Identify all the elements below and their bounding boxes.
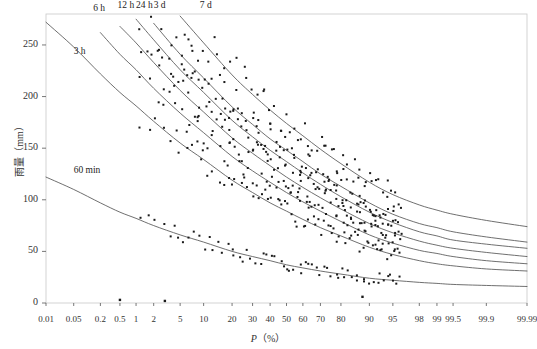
x-tick-label: 90 [365, 314, 374, 324]
scatter-point [140, 217, 142, 219]
scatter-point [359, 195, 361, 197]
scatter-point [372, 214, 374, 216]
scatter-point [394, 234, 396, 236]
scatter-point [398, 203, 400, 205]
scatter-point [270, 128, 272, 130]
scatter-point [187, 38, 189, 40]
scatter-point [336, 170, 338, 172]
scatter-point [394, 191, 396, 193]
scatter-point [293, 154, 295, 156]
scatter-point [211, 249, 213, 251]
scatter-point [219, 182, 221, 184]
scatter-point [343, 222, 345, 224]
scatter-point [364, 185, 366, 187]
scatter-point [224, 119, 226, 121]
scatter-point [315, 171, 317, 173]
scatter-point [374, 224, 376, 226]
scatter-point [227, 165, 229, 167]
scatter-point [198, 115, 200, 117]
scatter-point [157, 50, 159, 52]
scatter-point [197, 60, 199, 62]
scatter-point [293, 157, 295, 159]
scatter-point [245, 120, 247, 122]
scatter-point [331, 148, 333, 150]
scatter-point [305, 167, 307, 169]
scatter-point [207, 61, 209, 63]
scatter-point [357, 203, 359, 205]
scatter-point [252, 182, 254, 184]
scatter-point [392, 280, 394, 282]
x-tick-label: 5 [178, 314, 183, 324]
scatter-point [221, 98, 223, 100]
scatter-point [276, 141, 278, 143]
scatter-point [257, 119, 259, 121]
scatter-point [153, 219, 155, 221]
scatter-point [252, 149, 254, 151]
y-tick-label: 200 [8, 90, 38, 101]
scatter-point [389, 274, 391, 276]
scatter-point [387, 224, 389, 226]
scatter-point [154, 117, 156, 119]
x-tick-label: 40 [266, 314, 275, 324]
scatter-point [333, 184, 335, 186]
scatter-point [182, 80, 184, 82]
scatter-point [253, 112, 255, 114]
scatter-point [335, 198, 337, 200]
scatter-point [296, 226, 298, 228]
scatter-point [228, 117, 230, 119]
scatter-point [270, 158, 272, 160]
curve-label-3-d: 3 d [154, 0, 166, 10]
scatter-point [252, 195, 254, 197]
scatter-point [285, 113, 287, 115]
scatter-point [352, 181, 354, 183]
scatter-point [264, 145, 266, 147]
scatter-point [316, 267, 318, 269]
scatter-point [221, 252, 223, 254]
scatter-point [256, 141, 258, 143]
scatter-point [242, 173, 244, 175]
scatter-point [146, 50, 148, 52]
scatter-point [289, 131, 291, 133]
scatter-point [351, 193, 353, 195]
scatter-point [398, 252, 400, 254]
scatter-point [163, 127, 165, 129]
scatter-point [337, 277, 339, 279]
scatter-point [161, 57, 163, 59]
scatter-point [390, 190, 392, 192]
scatter-point [286, 202, 288, 204]
scatter-point [346, 215, 348, 217]
scatter-point [237, 118, 239, 120]
scatter-point [235, 89, 237, 91]
scatter-point [238, 154, 240, 156]
scatter-point [257, 144, 259, 146]
scatter-point [335, 190, 337, 192]
scatter-point [379, 217, 381, 219]
scatter-point [229, 111, 231, 113]
scatter-point [273, 105, 275, 107]
scatter-point [346, 163, 348, 165]
scatter-point [256, 125, 258, 127]
scatter-point [394, 232, 396, 234]
y-tick-label: 50 [8, 244, 38, 255]
scatter-point [266, 181, 268, 183]
scatter-point [211, 170, 213, 172]
scatter-point [371, 225, 373, 227]
scatter-point [350, 206, 352, 208]
scatter-point [343, 231, 345, 233]
scatter-point [138, 127, 140, 129]
scatter-point [314, 224, 316, 226]
scatter-point [390, 254, 392, 256]
scatter-point [300, 180, 302, 182]
scatter-point [286, 149, 288, 151]
x-tick-label: 30 [248, 314, 257, 324]
scatter-point [269, 185, 271, 187]
scatter-point [260, 144, 262, 146]
scatter-point [342, 154, 344, 156]
scatter-point [221, 126, 223, 128]
scatter-point [263, 88, 265, 90]
scatter-point [291, 147, 293, 149]
scatter-point [247, 151, 249, 153]
scatter-point [294, 221, 296, 223]
scatter-point [350, 217, 352, 219]
scatter-point [377, 225, 379, 227]
